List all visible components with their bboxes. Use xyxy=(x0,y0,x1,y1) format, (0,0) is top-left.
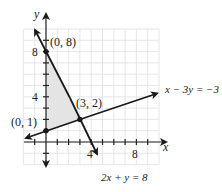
y-tick-8: 8 xyxy=(32,46,38,58)
point-0-8 xyxy=(43,49,48,54)
x-axis-label: x xyxy=(162,140,169,154)
shaded-feasible-region xyxy=(46,52,80,131)
point-label-0-8: (0, 8) xyxy=(50,35,76,49)
graph-canvas: y x 8 4 4 8 (0, 8) (3, 2) (0, 1) x − 3y … xyxy=(0,0,222,192)
point-0-1 xyxy=(43,128,48,133)
equation-label-line-1: x − 3y = −3 xyxy=(164,83,220,95)
equation-label-line-2: 2x + y = 8 xyxy=(101,171,148,183)
y-axis-label: y xyxy=(33,7,40,21)
x-axis xyxy=(24,139,166,145)
point-label-0-1: (0, 1) xyxy=(11,115,37,129)
point-3-2 xyxy=(77,117,82,122)
y-tick-4: 4 xyxy=(32,91,38,103)
point-label-3-2: (3, 2) xyxy=(76,96,102,110)
x-tick-8: 8 xyxy=(132,148,138,160)
x-tick-4: 4 xyxy=(87,148,93,160)
